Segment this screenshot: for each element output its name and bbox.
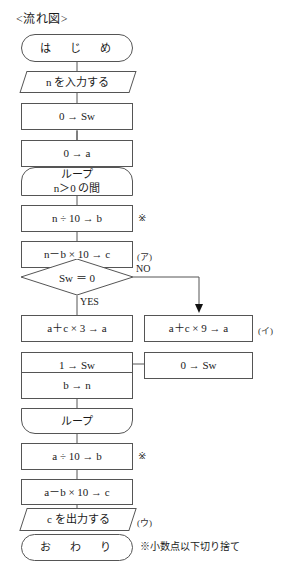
node-output-c-label: c を出力する (47, 513, 110, 526)
node-set-sw-zero-label: 0 → Sw (59, 110, 95, 123)
node-loop-end-label: ループ (61, 415, 93, 428)
node-a-plus-c9-label: a＋c × 9 → a (169, 322, 228, 335)
node-set-sw-zero: 0 → Sw (21, 103, 133, 130)
arrowhead-no-branch (195, 304, 203, 313)
node-loop-start-condition: n＞0 の間 (54, 182, 101, 196)
edge-label-yes: YES (80, 296, 99, 307)
node-loop-start: ループ n＞0 の間 (21, 167, 133, 196)
node-a-mod-10: a－b × 10 → c (21, 479, 133, 505)
node-set-sw-zero-b: 0 → Sw (144, 352, 253, 379)
node-decision-sw-label: Sw ＝ 0 (21, 259, 133, 295)
node-a-plus-c9: a＋c × 9 → a (144, 315, 253, 342)
node-set-a-zero-label: 0 → a (64, 147, 91, 160)
page-title: <流れ図> (16, 9, 68, 27)
node-start-label: は じ め (40, 42, 115, 55)
edge-label-no: NO (136, 263, 150, 274)
node-output-c: c を出力する (19, 508, 136, 531)
node-start: は じ め (21, 34, 133, 62)
node-loop-start-label: ループ (61, 168, 93, 182)
node-set-sw-one-label: 1 → Sw (59, 359, 95, 372)
node-end-label: お わ り (40, 541, 115, 554)
node-loop-end: ループ (21, 408, 133, 434)
node-set-a-zero: 0 → a (21, 140, 133, 167)
node-input-n-label: n を入力する (46, 76, 109, 89)
annotation-label-u: (ウ) (137, 516, 152, 529)
node-n-div-10-label: n ÷ 10 → b (52, 212, 102, 225)
node-a-div-10-label: a ÷ 10 → b (52, 450, 101, 463)
flowchart-diagram: <流れ図> (0, 0, 287, 571)
node-b-to-n: b → n (21, 372, 133, 399)
node-n-div-10: n ÷ 10 → b (21, 205, 133, 232)
node-b-to-n-label: b → n (63, 379, 91, 392)
node-a-mod-10-label: a－b × 10 → c (44, 486, 109, 499)
annotation-label-a: (ア) (137, 250, 152, 263)
node-end: お わ り (21, 534, 133, 561)
node-set-sw-zero-b-label: 0 → Sw (180, 359, 216, 372)
footnote-text: ※小数点以下切り捨て (140, 538, 240, 553)
node-a-plus-c3-label: a＋c × 3 → a (47, 322, 106, 335)
annotation-mark-1: ※ (138, 212, 146, 223)
annotation-label-i: (イ) (258, 324, 273, 337)
node-input-n: n を入力する (19, 71, 136, 93)
node-a-div-10: a ÷ 10 → b (21, 443, 133, 470)
annotation-mark-2: ※ (138, 450, 146, 461)
node-decision-sw: Sw ＝ 0 (21, 259, 133, 295)
node-a-plus-c3: a＋c × 3 → a (21, 315, 133, 342)
